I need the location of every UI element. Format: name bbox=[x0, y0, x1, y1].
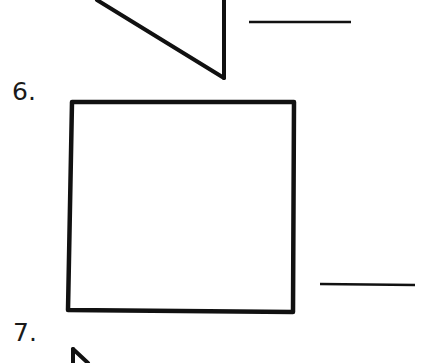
worksheet-drawing bbox=[0, 0, 421, 363]
triangle-shape-7 bbox=[73, 349, 88, 363]
question-number-6: 6. bbox=[12, 79, 36, 104]
question-number-7: 7. bbox=[13, 320, 37, 345]
answer-line-6[interactable] bbox=[320, 284, 415, 285]
right-triangle-shape bbox=[97, 0, 224, 78]
square-shape bbox=[68, 102, 294, 312]
